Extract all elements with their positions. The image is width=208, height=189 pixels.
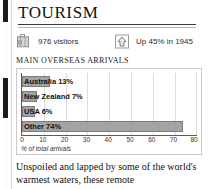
title-rule-thin xyxy=(18,27,196,28)
stat-growth: Up 45% in 1945 xyxy=(114,33,193,50)
x-tick-label: 70 xyxy=(170,136,177,143)
gridline-80 xyxy=(196,73,197,135)
tourism-page: TOURISM 976 visitors xyxy=(0,0,208,189)
page-title: TOURISM xyxy=(16,3,200,23)
x-tick-label: 0 xyxy=(20,136,24,143)
suitcase-icon xyxy=(16,33,33,50)
scrollbar-thumb-lower[interactable] xyxy=(3,78,8,118)
chart-x-axis: 0 10 20 30 40 50 60 70 80 xyxy=(21,136,197,145)
chart-bar-label: USA 6% xyxy=(24,106,52,117)
chart-axis-caption: % of total arrivals xyxy=(21,145,197,152)
x-tick-label: 80 xyxy=(190,136,197,143)
up-arrow-icon xyxy=(114,33,131,50)
page-header: TOURISM xyxy=(12,0,208,28)
chart-bar-label: Other 74% xyxy=(24,121,61,132)
stat-growth-text: Up 45% in 1945 xyxy=(136,37,193,46)
stats-row: 976 visitors Up 45% in 1945 xyxy=(16,33,208,50)
scrollbar-thumb-upper[interactable] xyxy=(3,0,8,22)
title-rule-thick xyxy=(18,24,196,25)
x-tick-label: 60 xyxy=(148,136,155,143)
stat-visitors-text: 976 visitors xyxy=(38,37,78,46)
content-column: TOURISM 976 visitors xyxy=(12,0,208,189)
x-tick-label: 30 xyxy=(83,136,90,143)
stat-visitors: 976 visitors xyxy=(16,33,114,50)
x-tick-label: 40 xyxy=(105,136,112,143)
chart-plot-area: Australia 13% New Zealand 7% USA 6% Othe… xyxy=(21,73,197,136)
vertical-scrollbar[interactable] xyxy=(0,0,12,189)
x-tick-label: 10 xyxy=(39,136,46,143)
arrivals-bar-chart: Australia 13% New Zealand 7% USA 6% Othe… xyxy=(16,68,202,155)
x-tick-label: 50 xyxy=(126,136,133,143)
x-tick-label: 20 xyxy=(61,136,68,143)
chart-section-label: MAIN OVERSEAS ARRIVALS xyxy=(16,56,208,65)
chart-bar-label: Australia 13% xyxy=(24,76,73,87)
chart-bar-label: New Zealand 7% xyxy=(24,91,83,102)
body-paragraph: Unspoiled and lapped by some of the worl… xyxy=(16,161,200,186)
